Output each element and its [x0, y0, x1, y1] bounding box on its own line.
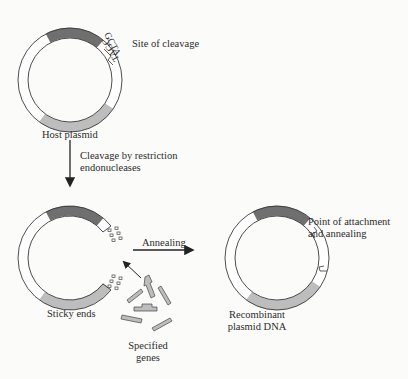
- specified-genes-label-line1: Specified: [128, 340, 168, 352]
- host-plasmid-label: Host plasmid: [42, 129, 98, 141]
- specified-genes: [121, 275, 172, 331]
- cleavage-label-line2: endonucleases: [80, 162, 141, 174]
- annealing-label: Annealing: [142, 237, 186, 249]
- specified-genes-label-line2: genes: [128, 352, 168, 364]
- insertion-arrow: [124, 262, 141, 278]
- attachment-label-line1: Point of attachment: [308, 216, 390, 228]
- sticky-ends-label: Sticky ends: [47, 308, 96, 320]
- recombinant-label-line2: plasmid DNA: [222, 321, 292, 333]
- cut-plasmid: [18, 206, 122, 310]
- site-of-cleavage-label: Site of cleavage: [132, 38, 199, 50]
- recombinant-label-line1: Recombinant: [222, 309, 292, 321]
- sticky-end-top: [108, 227, 122, 242]
- attachment-label-line2: and annealing: [308, 228, 367, 240]
- cleavage-label-line1: Cleavage by restriction: [80, 150, 177, 162]
- diagram-canvas: [0, 0, 408, 379]
- sticky-end-bottom: [108, 275, 122, 290]
